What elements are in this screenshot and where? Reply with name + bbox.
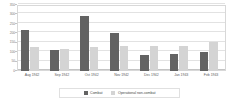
- y-axis-tick-label: 350: [0, 3, 15, 6]
- bar-noncombat: [209, 42, 218, 71]
- bar-combat: [170, 54, 179, 71]
- gridline: [18, 3, 225, 4]
- y-axis-tick-label: 50: [0, 60, 15, 63]
- y-axis-tick-label: 0: [0, 69, 15, 72]
- bar-combat: [50, 50, 59, 71]
- x-axis: Aug 1942Sep 1942Oct 1942Nov 1942Dec 1942…: [17, 73, 226, 82]
- bar-chart: 350300250200150100500 Aug 1942Sep 1942Oc…: [0, 0, 232, 103]
- legend-label: Combat: [90, 91, 102, 95]
- bar-noncombat: [150, 46, 159, 71]
- bar-group: [166, 5, 196, 71]
- bar-group: [196, 5, 226, 71]
- bar-group: [107, 5, 137, 71]
- x-axis-tick-label: Jan 1943: [166, 73, 196, 77]
- bar-noncombat: [179, 46, 188, 71]
- x-axis-tick-label: Oct 1942: [77, 73, 107, 77]
- bar-combat: [110, 33, 119, 71]
- bar-group: [47, 5, 77, 71]
- bar-combat: [200, 52, 209, 71]
- legend-swatch-icon: [111, 91, 115, 95]
- y-axis-tick-label: 150: [0, 41, 15, 44]
- bar-noncombat: [30, 47, 39, 72]
- bar-group: [77, 5, 107, 71]
- bar-noncombat: [60, 49, 69, 71]
- legend: CombatOperational non-combat: [59, 88, 180, 98]
- y-axis-tick-label: 200: [0, 32, 15, 35]
- x-axis-tick-label: Sep 1942: [47, 73, 77, 77]
- bar-noncombat: [120, 46, 129, 71]
- x-axis-tick-label: Aug 1942: [17, 73, 47, 77]
- bar-noncombat: [90, 47, 99, 72]
- x-axis-tick-label: Nov 1942: [107, 73, 137, 77]
- legend-entry[interactable]: Combat: [84, 91, 103, 95]
- bar-combat: [80, 16, 89, 71]
- y-axis: 350300250200150100500: [0, 5, 15, 71]
- legend-swatch-icon: [84, 91, 88, 95]
- y-axis-tick-label: 250: [0, 22, 15, 25]
- x-axis-tick-label: Feb 1943: [196, 73, 226, 77]
- bar-group: [136, 5, 166, 71]
- y-axis-tick-label: 100: [0, 51, 15, 54]
- bar-group: [17, 5, 47, 71]
- bar-combat: [140, 55, 149, 71]
- y-axis-tick-label: 300: [0, 13, 15, 16]
- legend-entry[interactable]: Operational non-combat: [111, 91, 155, 95]
- x-axis-tick-label: Dec 1942: [136, 73, 166, 77]
- bar-combat: [21, 30, 30, 71]
- bars-layer: [17, 5, 226, 71]
- legend-label: Operational non-combat: [118, 91, 155, 95]
